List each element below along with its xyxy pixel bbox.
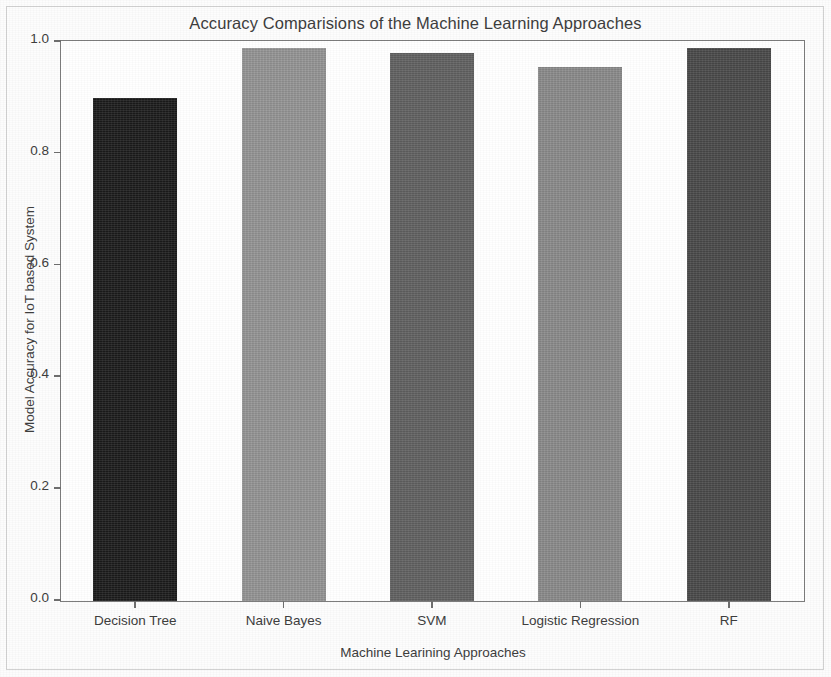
x-tick-mark <box>580 601 582 608</box>
bar-grain <box>687 48 771 601</box>
bar-naive-bayes <box>242 48 326 601</box>
y-tick-label: 0.2 <box>9 478 49 493</box>
x-axis-label: Machine Learining Approaches <box>60 645 806 660</box>
figure-root: Accuracy Comparisions of the Machine Lea… <box>0 0 831 677</box>
bar-rf <box>687 48 771 601</box>
y-tick-label: 0.8 <box>9 143 49 158</box>
y-tick-label: 0.6 <box>9 255 49 270</box>
y-tick-label: 0.0 <box>9 590 49 605</box>
plot-area: 0.00.20.40.60.81.0Decision TreeNaive Bay… <box>61 41 804 601</box>
x-tick-mark <box>431 601 433 608</box>
bar-grain <box>93 98 177 601</box>
chart-title: Accuracy Comparisions of the Machine Lea… <box>0 14 831 33</box>
plot-frame: 0.00.20.40.60.81.0Decision TreeNaive Bay… <box>60 40 805 602</box>
bar-grain <box>242 48 326 601</box>
y-tick-mark <box>54 40 61 42</box>
y-tick-mark <box>54 264 61 266</box>
bar-grain <box>538 67 622 601</box>
bar-svm <box>390 53 474 601</box>
y-tick-mark <box>54 375 61 377</box>
bar-decision-tree <box>93 98 177 601</box>
bar-logistic-regression <box>538 67 622 601</box>
y-tick-mark <box>54 152 61 154</box>
y-tick-mark <box>54 599 61 601</box>
x-tick-mark <box>134 601 136 608</box>
bar-grain <box>390 53 474 601</box>
y-tick-label: 0.4 <box>9 366 49 381</box>
y-tick-mark <box>54 487 61 489</box>
x-tick-label: RF <box>639 613 819 628</box>
x-tick-mark <box>283 601 285 608</box>
x-tick-mark <box>728 601 730 608</box>
y-tick-label: 1.0 <box>9 31 49 46</box>
